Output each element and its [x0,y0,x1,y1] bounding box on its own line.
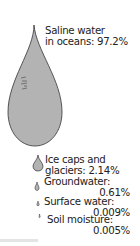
ice-drop-icon [33,155,43,171]
ice-label: Ice caps and glaciers: 2.14% [45,154,119,176]
groundwater-drop-icon [35,182,39,191]
bottom-gray-bar [0,239,38,242]
groundwater-label: Groundwater: 0.61% [44,176,130,198]
ocean-label: Saline water in oceans: 97.2% [45,25,128,47]
surface-water-drop-icon [37,201,39,206]
soil-moisture-label: Soil moisture: 0.005% [47,214,130,236]
soil-moisture-drop-icon [39,214,40,218]
